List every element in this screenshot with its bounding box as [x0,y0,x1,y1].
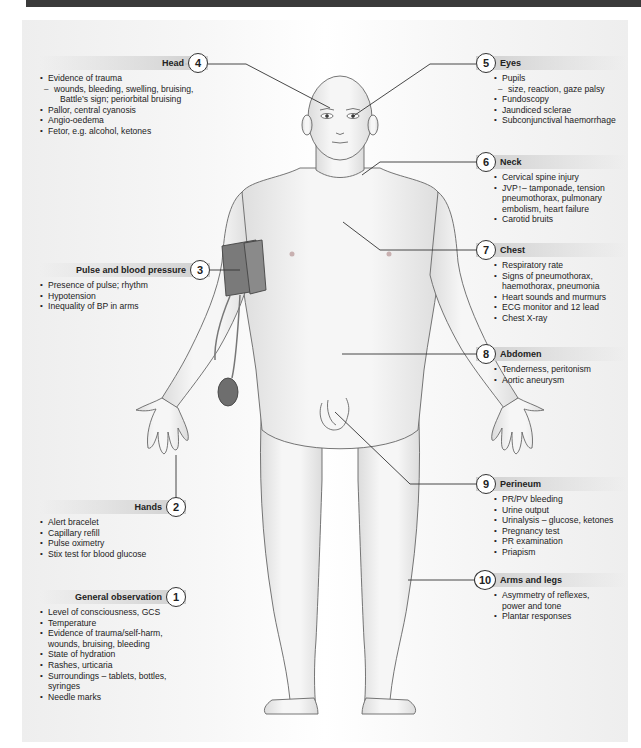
list-item: power and tone [494,601,626,612]
list-item: Cervical spine injury [494,172,626,183]
section-abdomen: 8 Abdomen Tenderness, peritonism Aortic … [476,347,626,385]
leader-5-eyes [352,64,485,117]
list-item: Fundoscopy [494,94,626,105]
list-item: Pupils [494,73,626,84]
section-item-list: Tenderness, peritonism Aortic aneurysm [494,364,626,385]
list-item: Aortic aneurysm [494,375,626,386]
list-item: Plantar responses [494,611,626,622]
section-title: Hands [134,502,162,512]
section-chest: 7 Chest Respiratory rate Signs of pneumo… [476,243,626,324]
callout-number-badge: 2 [166,497,186,517]
list-item: Temperature [40,618,186,629]
section-item-list: Evidence of trauma wounds, bleeding, swe… [40,73,208,137]
list-item: Chest X-ray [494,313,626,324]
section-title: Head [162,58,184,68]
section-pulse-bp: Pulse and blood pressure 3 Presence of p… [40,263,210,312]
callout-number-badge: 1 [166,587,186,607]
callout-number-badge: 10 [474,570,496,590]
list-item: Signs of pneumothorax, [494,271,626,282]
list-item: Tenderness, peritonism [494,364,626,375]
section-title: Eyes [500,58,521,68]
callout-number-badge: 6 [476,152,496,172]
section-item-list: Cervical spine injury JVP↑– tamponade, t… [494,172,626,225]
section-item-list: Presence of pulse; rhythm Hypotension In… [40,280,210,312]
section-arms-and-legs: 10 Arms and legs Asymmetry of reflexes, … [476,573,626,622]
list-item: Level of consciousness, GCS [40,607,186,618]
right-hand [492,398,544,454]
list-item: Pallor, central cyanosis [40,105,208,116]
list-item: PR examination [494,536,626,547]
list-item: PR/PV bleeding [494,494,626,505]
section-item-list: Level of consciousness, GCS Temperature … [40,607,186,702]
list-item: Urine output [494,505,626,516]
section-neck: 6 Neck Cervical spine injury JVP↑– tampo… [476,155,626,225]
left-foot [264,698,318,714]
section-hands: Hands 2 Alert bracelet Capillary refill … [40,500,186,559]
list-item: Rashes, urticaria [40,660,186,671]
list-item: Inequality of BP in arms [40,301,210,312]
list-item: pneumothorax, pulmonary [494,193,626,204]
list-item: Subconjunctival haemorrhage [494,115,626,126]
section-title: Arms and legs [500,575,562,585]
list-item: Battle’s sign; periorbital bruising [40,94,208,105]
list-item: Alert bracelet [40,517,186,528]
list-item: Priapism [494,547,626,558]
list-item: Jaundiced sclerae [494,105,626,116]
right-foot [362,698,416,714]
callout-number-badge: 8 [476,344,496,364]
section-title: Neck [500,157,522,167]
right-ear [368,115,378,135]
list-item: Carotid bruits [494,214,626,225]
list-item: State of hydration [40,649,186,660]
list-item: Presence of pulse; rhythm [40,280,210,291]
section-title: Abdomen [500,349,542,359]
list-item: haemothorax, pneumonia [494,281,626,292]
list-item: Needle marks [40,692,186,703]
list-item: Angio-oedema [40,115,208,126]
torso [237,168,444,449]
list-item: Heart sounds and murmurs [494,292,626,303]
section-perineum: 9 Perineum PR/PV bleeding Urine output U… [476,477,626,558]
section-item-list: Pupils size, reaction, gaze palsy Fundos… [494,73,626,126]
section-item-list: Asymmetry of reflexes, power and tone Pl… [494,590,626,622]
left-ear [302,115,312,135]
section-title: General observation [75,592,162,602]
list-item: wounds, bleeding, swelling, bruising, [40,84,208,95]
section-item-list: PR/PV bleeding Urine output Urinalysis –… [494,494,626,558]
left-hand [136,398,188,454]
list-item: Fetor, e.g. alcohol, ketones [40,126,208,137]
head [308,76,372,160]
list-item: Pulse oximetry [40,538,186,549]
section-title: Chest [500,245,525,255]
list-item: Surroundings – tablets, bottles, [40,671,186,682]
list-item: Stix test for blood glucose [40,549,186,560]
section-head: Head 4 Evidence of trauma wounds, bleedi… [40,56,208,137]
list-item: embolism, heart failure [494,204,626,215]
callout-number-badge: 9 [476,474,496,494]
list-item: Hypotension [40,291,210,302]
callout-number-badge: 5 [476,53,496,73]
section-title: Pulse and blood pressure [76,265,186,275]
list-item: JVP↑– tamponade, tension [494,183,626,194]
list-item: Asymmetry of reflexes, [494,590,626,601]
list-item: Respiratory rate [494,260,626,271]
callout-number-badge: 7 [476,240,496,260]
list-item: Pregnancy test [494,526,626,537]
section-general-observation: General observation 1 Level of conscious… [40,590,186,702]
list-item: syringes [40,681,186,692]
list-item: Urinalysis – glucose, ketones [494,515,626,526]
section-eyes: 5 Eyes Pupils size, reaction, gaze palsy… [476,56,626,126]
list-item: size, reaction, gaze palsy [494,84,626,95]
list-item: wounds, bruising, bleeding [40,639,186,650]
callout-number-badge: 4 [188,53,208,73]
list-item: Capillary refill [40,528,186,539]
section-item-list: Alert bracelet Capillary refill Pulse ox… [40,517,186,559]
callout-number-badge: 3 [190,260,210,280]
bp-bulb [218,378,238,406]
list-item: ECG monitor and 12 lead [494,302,626,313]
section-item-list: Respiratory rate Signs of pneumothorax, … [494,260,626,324]
list-item: Evidence of trauma/self-harm, [40,628,186,639]
list-item: Evidence of trauma [40,73,208,84]
section-title: Perineum [500,479,541,489]
